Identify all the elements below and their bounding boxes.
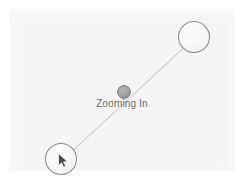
- zoom-gesture-diagram: Zooming In: [0, 0, 244, 186]
- zoom-center-dot: [118, 86, 131, 99]
- touch-point-top-right[interactable]: [179, 22, 210, 53]
- diagram-caption: Zooming In: [0, 98, 244, 110]
- diagram-vector-layer: [0, 0, 244, 186]
- touch-point-circle[interactable]: [179, 22, 210, 53]
- zoom-center-dot-circle: [118, 86, 131, 99]
